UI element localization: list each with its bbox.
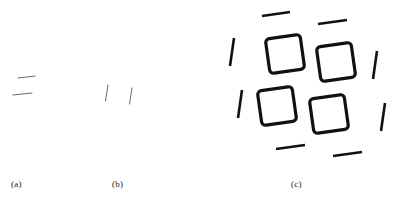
square-top-left <box>265 34 305 74</box>
caption-a: (a) <box>11 179 22 190</box>
panel-a-stimulus <box>0 0 105 170</box>
dash-right-upper <box>373 51 377 79</box>
dash-left <box>106 85 109 101</box>
panel-a <box>0 0 105 170</box>
dash-right-lower <box>381 103 385 131</box>
panel-c <box>210 0 397 170</box>
caption-b: (b) <box>112 179 123 190</box>
panel-b <box>105 0 210 170</box>
square-top-right <box>316 42 356 82</box>
dash-right <box>130 88 133 104</box>
panel-b-stimulus <box>105 0 210 170</box>
dash-upper <box>18 76 35 78</box>
dash-bottom-left <box>276 145 305 149</box>
dash-top-right <box>318 20 347 24</box>
caption-c: (c) <box>291 179 302 190</box>
dash-left-lower <box>238 90 242 118</box>
dash-left-upper <box>230 38 234 66</box>
dash-bottom-right <box>333 152 362 156</box>
panel-c-stimulus <box>210 0 397 170</box>
dash-lower <box>13 93 32 95</box>
figure-panel-container: (a) (b) (c) <box>0 0 397 203</box>
square-bottom-left <box>257 86 297 126</box>
dash-top-left <box>262 12 290 16</box>
square-bottom-right <box>309 94 349 134</box>
